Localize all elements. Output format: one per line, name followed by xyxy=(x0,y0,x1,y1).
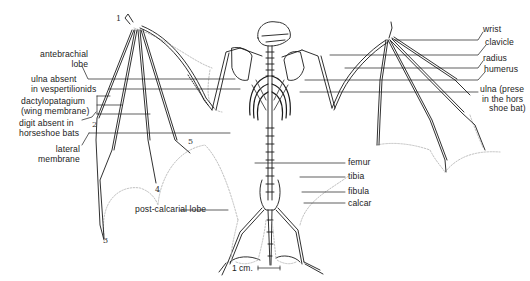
label-antebrachial-lobe: antebrachial lobe xyxy=(40,50,88,69)
label-lateral-membrane: lateral membrane xyxy=(38,145,80,164)
label-tibia: tibia xyxy=(348,172,364,182)
pelvis xyxy=(260,180,280,210)
label-digit-absent: digit absent in horseshoe bats xyxy=(19,119,79,138)
tail xyxy=(268,210,272,265)
legs xyxy=(219,175,350,275)
label-radius: radius xyxy=(483,54,507,64)
digit-number-5: 5 xyxy=(188,137,193,146)
left-foot xyxy=(219,262,228,275)
right-foot xyxy=(304,262,323,274)
label-line: in vespertilionids xyxy=(31,85,96,95)
label-line: lobe xyxy=(40,60,88,70)
digit-number-3: 3 xyxy=(103,236,108,245)
right-radius xyxy=(332,40,386,108)
label-ulna-absent: ulna absent in vespertilionids xyxy=(31,75,96,94)
label-line: membrane xyxy=(38,155,80,165)
left-radius xyxy=(140,28,212,110)
spine xyxy=(268,46,272,200)
label-wrist: wrist xyxy=(483,25,501,35)
label-femur: femur xyxy=(348,158,370,168)
right-scapula xyxy=(284,51,304,80)
label-calcar: calcar xyxy=(348,199,372,209)
left-femur xyxy=(228,208,262,262)
label-humerus: humerus xyxy=(484,65,518,75)
digit-number-4: 4 xyxy=(155,185,160,194)
bat-skeleton-diagram xyxy=(0,0,530,281)
digit-number-2: 2 xyxy=(92,120,97,129)
leader-lines xyxy=(82,32,486,270)
label-clavicle: clavicle xyxy=(485,38,514,48)
left-scapula xyxy=(232,47,252,80)
right-wing xyxy=(302,22,500,172)
right-digit-3-bone xyxy=(388,40,446,172)
left-thumb xyxy=(125,14,133,24)
ribcage xyxy=(250,76,291,120)
digit-number-1: 1 xyxy=(116,14,121,23)
label-line: shoe bat) xyxy=(480,104,526,114)
label-ulna-present: ulna (prese in the hors shoe bat) xyxy=(480,85,526,114)
label-fibula: fibula xyxy=(348,187,369,197)
right-thumb xyxy=(389,22,392,38)
left-digit-2-bone xyxy=(96,30,132,240)
label-dactylopatagium: dactylopatagium (wing membrane) xyxy=(21,97,89,116)
label-post-calcarial-lobe: post-calcarial lobe xyxy=(135,205,206,215)
right-calcar xyxy=(276,256,300,262)
scale-bar-label: 1 cm. xyxy=(232,263,253,273)
label-line: (wing membrane) xyxy=(21,107,89,117)
label-line: horseshoe bats xyxy=(19,129,79,139)
